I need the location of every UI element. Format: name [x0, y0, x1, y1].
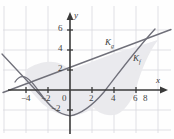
x-axis-arrow-icon [160, 87, 168, 94]
coordinate-plane-figure: −4 −2 0 2 4 6 8 6 4 2 −2 y x Kg Kf [0, 0, 174, 139]
x-axis-label: x [156, 76, 160, 85]
y-tick-label-2: 2 [58, 64, 63, 73]
y-tick-label-6: 6 [58, 24, 63, 33]
x-tick-label-2: 2 [89, 94, 94, 103]
y-axis-arrow-icon [67, 12, 74, 20]
x-tick-label-4: 4 [111, 94, 116, 103]
plot-canvas [0, 0, 174, 139]
x-tick-label-0: 0 [62, 94, 67, 103]
y-axis-label: y [74, 11, 78, 20]
curve-label-kg: Kg [105, 38, 114, 49]
x-tick-label-8: 8 [143, 94, 148, 103]
x-tick-label--4: −4 [21, 94, 31, 103]
x-tick-label-6: 6 [133, 94, 138, 103]
y-tick-label-4: 4 [58, 44, 63, 53]
curve-label-kg-sub: g [111, 43, 114, 49]
curve-label-kf: Kf [133, 54, 141, 65]
x-tick-label--2: −2 [41, 94, 51, 103]
y-tick-label--2: −2 [51, 104, 61, 113]
curve-label-kf-sub: f [139, 59, 141, 65]
